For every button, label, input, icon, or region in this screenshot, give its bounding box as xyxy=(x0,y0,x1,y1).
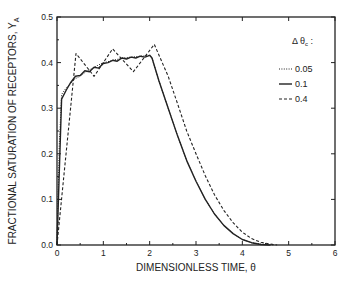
legend: Δ θc :0.050.10.4 xyxy=(279,36,313,104)
y-axis-title-subscript: A xyxy=(13,17,20,22)
x-tick-label: 5 xyxy=(286,248,291,258)
series-group xyxy=(57,44,277,245)
y-tick-label: 0.1 xyxy=(41,194,53,204)
x-axis-title: DIMENSIONLESS TIME, θ xyxy=(136,262,256,273)
x-tick-label: 2 xyxy=(147,248,152,258)
x-tick-label: 3 xyxy=(194,248,199,258)
x-tick-label: 4 xyxy=(240,248,245,258)
y-tick-label: 0.3 xyxy=(41,103,53,113)
axes xyxy=(57,17,335,245)
legend-label-0-05: 0.05 xyxy=(295,64,313,74)
x-tick-label: 0 xyxy=(55,248,60,258)
series-line-0-4 xyxy=(57,44,277,245)
series-line-0-05 xyxy=(57,55,275,245)
y-tick-label: 0.5 xyxy=(41,12,53,22)
x-tick-label: 6 xyxy=(333,248,338,258)
legend-label-0-1: 0.1 xyxy=(295,79,308,89)
ticks: 01234560.00.10.20.30.40.5 xyxy=(41,12,337,258)
y-tick-label: 0.4 xyxy=(41,58,53,68)
legend-title: Δ θc : xyxy=(292,36,313,47)
y-axis-title: FRACTIONAL SATURATION OF RECEPTORS, YA xyxy=(7,17,20,244)
x-tick-label: 1 xyxy=(101,248,106,258)
series-line-0-1 xyxy=(57,55,270,245)
chart: 01234560.00.10.20.30.40.5 Δ θc :0.050.10… xyxy=(0,0,347,281)
y-tick-label: 0.2 xyxy=(41,149,53,159)
legend-label-0-4: 0.4 xyxy=(295,94,308,104)
legend-title-suffix: : xyxy=(308,36,313,46)
y-tick-label: 0.0 xyxy=(41,240,53,250)
plot-frame xyxy=(57,17,335,245)
